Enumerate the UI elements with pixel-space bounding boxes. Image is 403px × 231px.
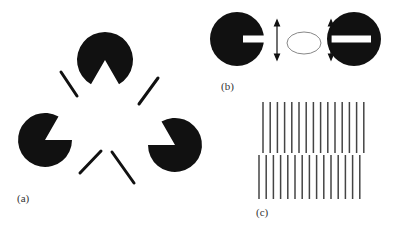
panel-b-slotted-disks: (b) — [210, 12, 381, 93]
panel-a-kanizsa-triangle: (a) — [17, 32, 202, 205]
grating-top — [263, 102, 364, 153]
panel-label-b: (b) — [221, 80, 234, 93]
panel-label-c: (c) — [256, 206, 269, 219]
line-segment-top-right — [139, 78, 158, 104]
line-segment-bottom-right — [112, 152, 134, 183]
grating-bottom — [259, 155, 360, 199]
pacman-inducer-right — [148, 118, 202, 172]
pacman-inducer-left — [18, 113, 72, 167]
line-segment-top-left — [61, 72, 77, 96]
illusory-contour-ellipse — [287, 32, 321, 54]
panel-label-a: (a) — [17, 192, 30, 205]
slot-right — [331, 36, 371, 43]
slot-left — [243, 36, 276, 43]
pacman-inducer-top — [77, 32, 133, 84]
panel-c-offset-gratings — [259, 102, 364, 199]
illusory-contours-figure: (a) (b) (c) — [0, 0, 403, 231]
line-segment-bottom-left — [80, 151, 101, 173]
